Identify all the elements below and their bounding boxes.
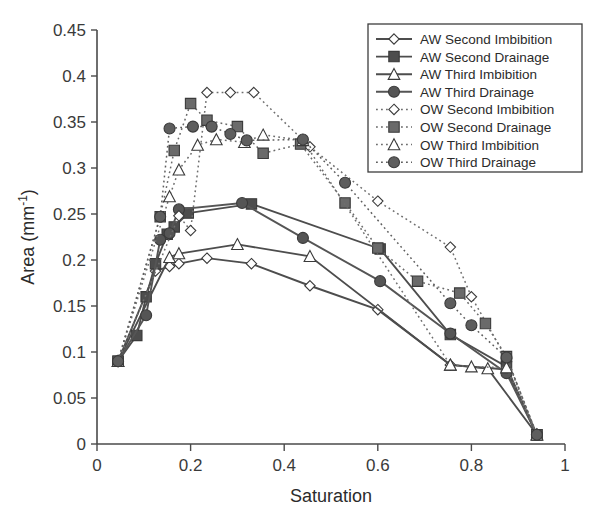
data-point	[373, 243, 383, 253]
data-point	[375, 276, 386, 287]
data-point	[249, 87, 259, 97]
y-tick-label: 0.4	[62, 67, 86, 86]
data-point	[501, 352, 512, 363]
legend-marker-icon	[389, 86, 400, 97]
y-tick-label: 0.45	[53, 21, 86, 40]
x-tick-label: 0.2	[179, 456, 203, 475]
data-point	[155, 234, 166, 245]
y-tick-label: 0	[77, 435, 86, 454]
data-point	[340, 177, 351, 188]
data-point	[531, 429, 542, 440]
series-line	[118, 203, 537, 435]
data-point	[174, 258, 184, 268]
data-point	[445, 242, 455, 252]
data-point	[445, 298, 456, 309]
series-aw-second-drainage	[113, 199, 542, 440]
data-point	[225, 87, 235, 97]
legend-label: OW Second Drainage	[420, 120, 551, 135]
data-point	[455, 288, 465, 298]
y-tick-label: 0.1	[62, 343, 86, 362]
saturation-area-chart: 00.050.10.150.20.250.30.350.40.4500.20.4…	[0, 0, 611, 516]
y-axis-title: Area (mm-1)	[16, 189, 38, 285]
data-point	[258, 148, 268, 158]
legend-label: AW Second Drainage	[420, 50, 549, 65]
data-point	[466, 292, 476, 302]
legend-label: AW Second Imbibition	[420, 32, 552, 47]
series-aw-third-drainage	[113, 197, 543, 440]
legend-label: OW Third Imbibition	[420, 138, 539, 153]
data-point	[373, 196, 383, 206]
legend-marker-icon	[389, 122, 399, 132]
series-aw-third-imbibition	[112, 239, 542, 440]
series-line	[118, 204, 537, 435]
x-tick-label: 0.8	[460, 456, 484, 475]
series-line	[118, 258, 537, 435]
data-point	[241, 135, 252, 146]
data-point	[155, 211, 166, 222]
series-line	[118, 135, 537, 435]
data-point	[412, 276, 422, 286]
data-point	[187, 121, 198, 132]
data-point	[202, 87, 212, 97]
data-point	[257, 129, 269, 140]
series-aw-second-imbibition	[113, 253, 542, 440]
x-tick-label: 0.4	[272, 456, 296, 475]
y-tick-label: 0.15	[53, 297, 86, 316]
data-point	[141, 310, 152, 321]
data-point	[113, 356, 124, 367]
data-point	[185, 98, 195, 108]
data-point	[305, 281, 315, 291]
legend-marker-icon	[389, 157, 400, 168]
data-point	[297, 232, 308, 243]
series-line	[118, 244, 537, 434]
legend-label: OW Second Imbibition	[420, 102, 554, 117]
data-point	[202, 253, 212, 263]
y-tick-label: 0.3	[62, 159, 86, 178]
data-point	[297, 134, 308, 145]
data-point	[480, 318, 490, 328]
x-tick-label: 1	[560, 456, 569, 475]
data-point	[445, 328, 456, 339]
chart-figure: 00.050.10.150.20.250.30.350.40.4500.20.4…	[0, 0, 611, 516]
legend-label: AW Third Drainage	[420, 85, 534, 100]
data-point	[169, 145, 179, 155]
data-point	[237, 197, 248, 208]
x-tick-label: 0	[92, 456, 101, 475]
y-tick-label: 0.05	[53, 389, 86, 408]
data-point	[164, 228, 175, 239]
y-tick-label: 0.35	[53, 113, 86, 132]
y-tick-label: 0.25	[53, 205, 86, 224]
x-axis-title: Saturation	[290, 486, 372, 506]
legend-marker-icon	[389, 51, 399, 61]
legend-label: AW Third Imbibition	[420, 67, 537, 82]
series-ow-third-imbibition	[112, 129, 542, 440]
data-point	[466, 320, 477, 331]
data-point	[246, 258, 256, 268]
legend-label: OW Third Drainage	[420, 155, 536, 170]
y-tick-label: 0.2	[62, 251, 86, 270]
data-point	[164, 123, 175, 134]
x-tick-label: 0.6	[366, 456, 390, 475]
data-point	[225, 128, 236, 139]
data-point	[206, 121, 217, 132]
